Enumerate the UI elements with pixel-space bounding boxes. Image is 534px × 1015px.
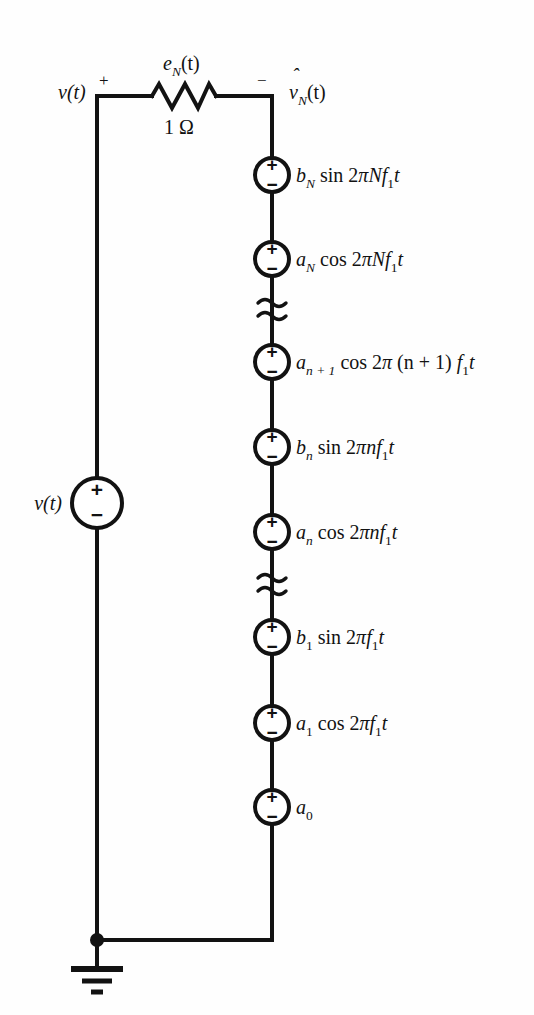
source-a-0-plus: + [266,786,277,807]
resistor-value-label: 1 Ω [164,116,194,138]
resistor-1-ohm [152,84,216,108]
source-a-n-plus-1-plus: + [266,341,277,362]
source-a-N-plus: + [266,238,277,259]
source-a-n-label: an cos 2πnf1t [296,521,398,548]
source-b-n-minus: − [266,446,277,467]
source-vt-label: v(t) [34,492,62,515]
source-a-0-minus: − [266,806,277,827]
source-b-1-plus: + [266,616,277,637]
source-a-N-minus: − [266,258,277,279]
source-a-N-label: aN cos 2πNf1t [296,248,403,275]
source-b-n-label: bn sin 2πnf1t [296,436,394,463]
source-b-n-plus: + [266,426,277,447]
source-a-1-minus: − [266,722,277,743]
top-terminal-plus: + [99,71,109,90]
output-label-hat: ˆ [292,65,300,87]
source-a-1-plus: + [266,702,277,723]
source-a-1-label: a1 cos 2πf1t [296,712,388,739]
source-a-0-label: a0 [296,796,313,823]
source-a-n-minus: − [266,531,277,552]
source-vt-plus: + [91,478,103,501]
source-b-N-plus: + [266,154,277,175]
source-vt-minus: − [91,503,103,526]
source-a-n-plus: + [266,511,277,532]
source-b-1-label: b1 sin 2πf1t [296,626,384,653]
source-a-n-plus-1-minus: − [266,361,277,382]
source-b-N-minus: − [266,174,277,195]
resistor-label-e: e [163,52,172,74]
source-a-n-plus-1-label: an + 1 cos 2π (n + 1) f1t [296,351,475,378]
output-label-arg: (t) [307,81,326,104]
circuit-svg: + − v(t) v(t) + eN(t) 1 Ω − vN(t) ˆ + − … [0,0,534,1015]
source-b-N-label: bN sin 2πNf1t [296,164,400,191]
resistor-symbol-label: eN(t) [163,52,200,79]
source-b-1-minus: − [266,636,277,657]
circuit-diagram-canvas: + − v(t) v(t) + eN(t) 1 Ω − vN(t) ˆ + − … [0,0,534,1015]
resistor-label-arg: (t) [181,52,200,75]
top-terminal-minus: − [257,71,267,90]
top-input-label: v(t) [58,81,86,104]
